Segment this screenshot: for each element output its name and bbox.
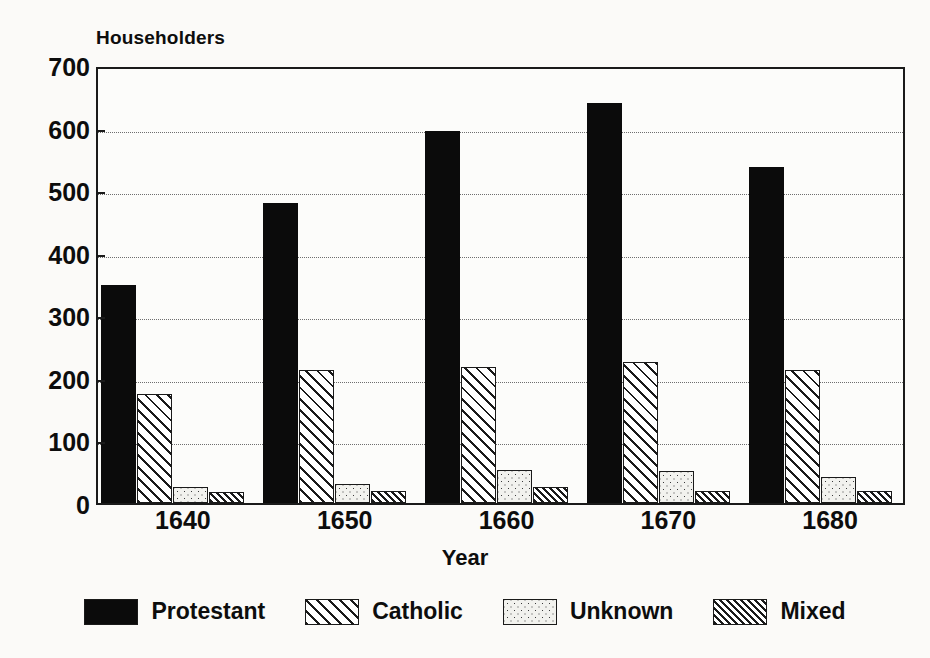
x-axis-tick-label: 1670 [640,508,696,533]
legend-item-unknown[interactable]: Unknown [503,598,674,625]
bar-mixed-1650[interactable] [371,491,406,504]
bar-group [425,69,568,503]
x-axis-tick-label: 1650 [317,508,373,533]
y-axis-tick-labels: 0100200300400500600700 [0,67,90,505]
y-axis-tick-mark [96,442,105,444]
y-axis-tick-label: 0 [12,493,90,518]
legend-label: Unknown [570,598,674,625]
legend-label: Protestant [151,598,265,625]
bar-unknown-1670[interactable] [659,471,694,503]
bar-group [587,69,730,503]
y-axis-tick-mark [96,380,105,382]
bar-mixed-1680[interactable] [857,491,892,503]
bar-catholic-1660[interactable] [461,367,496,503]
y-axis-tick-label: 100 [12,430,90,455]
bar-unknown-1660[interactable] [497,470,532,503]
bar-protestant-1640[interactable] [101,285,136,503]
bar-unknown-1640[interactable] [173,487,208,503]
y-axis-tick-label: 500 [12,180,90,205]
bar-protestant-1660[interactable] [425,131,460,503]
legend-swatch-mixed [713,599,767,625]
legend-swatch-protestant [84,599,138,625]
legend-swatch-catholic [305,599,359,625]
bar-unknown-1650[interactable] [335,484,370,503]
x-axis-tick-label: 1680 [802,508,858,533]
legend-item-protestant[interactable]: Protestant [84,598,265,625]
bar-group [749,69,892,503]
legend-label: Mixed [780,598,845,625]
legend-item-mixed[interactable]: Mixed [713,598,845,625]
y-axis-tick-label: 300 [12,305,90,330]
bar-catholic-1670[interactable] [623,362,658,503]
bar-catholic-1640[interactable] [137,394,172,504]
bar-group [101,69,244,503]
bar-catholic-1680[interactable] [785,370,820,503]
y-axis-tick-mark [96,317,105,319]
bar-unknown-1680[interactable] [821,477,856,503]
y-axis-tick-mark [96,130,105,132]
bar-mixed-1640[interactable] [209,492,244,503]
chart-figure: Householders 0100200300400500600700 1640… [0,0,930,658]
bar-protestant-1650[interactable] [263,203,298,503]
bar-mixed-1670[interactable] [695,491,730,503]
y-axis-tick-mark [96,192,105,194]
y-axis-tick-label: 600 [12,117,90,142]
y-axis-tick-mark [96,255,105,257]
x-axis-tick-label: 1640 [155,508,211,533]
y-axis-tick-label: 700 [12,55,90,80]
y-axis-title: Householders [96,27,225,49]
bar-group [263,69,406,503]
y-axis-tick-label: 200 [12,367,90,392]
x-axis-title: Year [0,545,930,571]
legend-swatch-unknown [503,599,557,625]
chart-legend: ProtestantCatholicUnknownMixed [0,598,930,625]
bar-catholic-1650[interactable] [299,370,334,503]
bar-protestant-1680[interactable] [749,167,784,503]
x-axis-tick-label: 1660 [479,508,535,533]
legend-label: Catholic [372,598,463,625]
bar-protestant-1670[interactable] [587,103,622,503]
bar-mixed-1660[interactable] [533,487,568,503]
plot-area [96,67,905,505]
x-axis-tick-labels: 16401650166016701680 [96,508,905,542]
y-axis-tick-label: 400 [12,242,90,267]
legend-item-catholic[interactable]: Catholic [305,598,463,625]
